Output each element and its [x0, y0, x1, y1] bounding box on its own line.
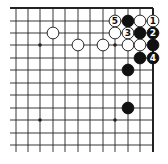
white-stone-icon: [47, 27, 59, 39]
black-stone: [147, 39, 159, 51]
white-stone: [109, 27, 121, 39]
white-stone: [122, 39, 134, 51]
black-stone: [134, 27, 146, 39]
black-stone-icon: [122, 15, 134, 27]
black-stone-4: 4: [147, 52, 159, 64]
move-number: 2: [150, 28, 156, 38]
move-number: 5: [112, 16, 118, 26]
white-stone-icon: [97, 39, 109, 51]
black-stone-icon: [122, 102, 134, 114]
star-points: [38, 43, 117, 122]
black-stone-icon: [147, 39, 159, 51]
black-stone: [134, 52, 146, 64]
white-stone-icon: [134, 15, 146, 27]
white-stone: [134, 39, 146, 51]
move-number: 1: [150, 16, 156, 26]
white-stone-3: 3: [122, 27, 134, 39]
star-point: [113, 118, 117, 122]
white-stone-icon: [72, 39, 84, 51]
white-stone: [97, 39, 109, 51]
black-stone-2: 2: [147, 27, 159, 39]
white-stone-5: 5: [109, 15, 121, 27]
white-stone: [134, 15, 146, 27]
white-stone: [47, 27, 59, 39]
white-stone-icon: [122, 39, 134, 51]
black-stone: [122, 15, 134, 27]
white-stone-1: 1: [147, 15, 159, 27]
black-stone-icon: [122, 64, 134, 76]
white-stone: [72, 39, 84, 51]
star-point: [113, 43, 117, 47]
star-point: [38, 118, 42, 122]
move-number: 4: [150, 53, 156, 63]
star-point: [38, 43, 42, 47]
move-number: 3: [125, 28, 131, 38]
black-stone: [122, 64, 134, 76]
white-stone-icon: [109, 27, 121, 39]
white-stone-icon: [134, 39, 146, 51]
black-stone-icon: [134, 27, 146, 39]
black-stone: [122, 102, 134, 114]
go-board: 51324: [0, 0, 168, 164]
black-stone-icon: [134, 52, 146, 64]
